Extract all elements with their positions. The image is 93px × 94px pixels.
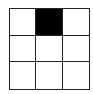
- grid-board: [9, 8, 90, 90]
- grid-cell-r0-c0[interactable]: [10, 9, 36, 36]
- grid-cell-r2-c2[interactable]: [63, 62, 89, 89]
- grid-cell-r2-c1[interactable]: [36, 62, 62, 89]
- grid-cell-r0-c2[interactable]: [63, 9, 89, 36]
- grid-cell-r1-c1[interactable]: [36, 36, 62, 63]
- grid-cell-r1-c0[interactable]: [10, 36, 36, 63]
- grid-cell-r0-c1-filled[interactable]: [36, 9, 62, 36]
- grid-cell-r2-c0[interactable]: [10, 62, 36, 89]
- grid-cell-r1-c2[interactable]: [63, 36, 89, 63]
